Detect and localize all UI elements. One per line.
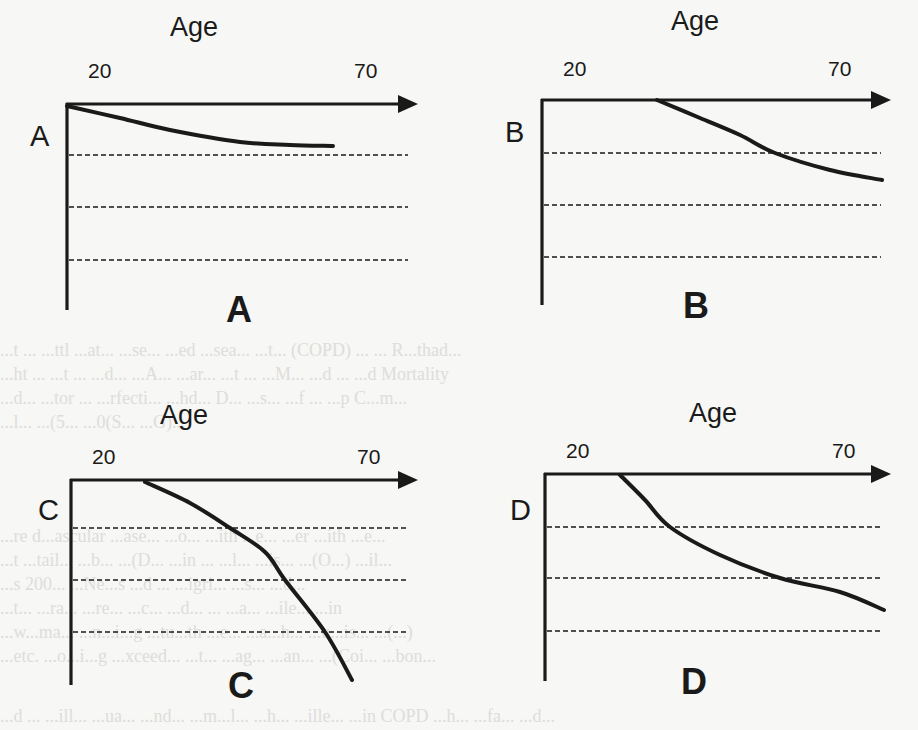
decline-curve [620,475,884,610]
tick-label-70: 70 [832,440,855,461]
panel-d: Age2070DD [0,0,918,730]
axis-title-age: Age [689,400,737,427]
side-label: D [510,496,531,525]
panel-caption: D [681,664,707,700]
panel-d-plot [0,0,918,730]
arrow-right-icon [871,465,891,483]
tick-label-20: 20 [566,440,589,461]
